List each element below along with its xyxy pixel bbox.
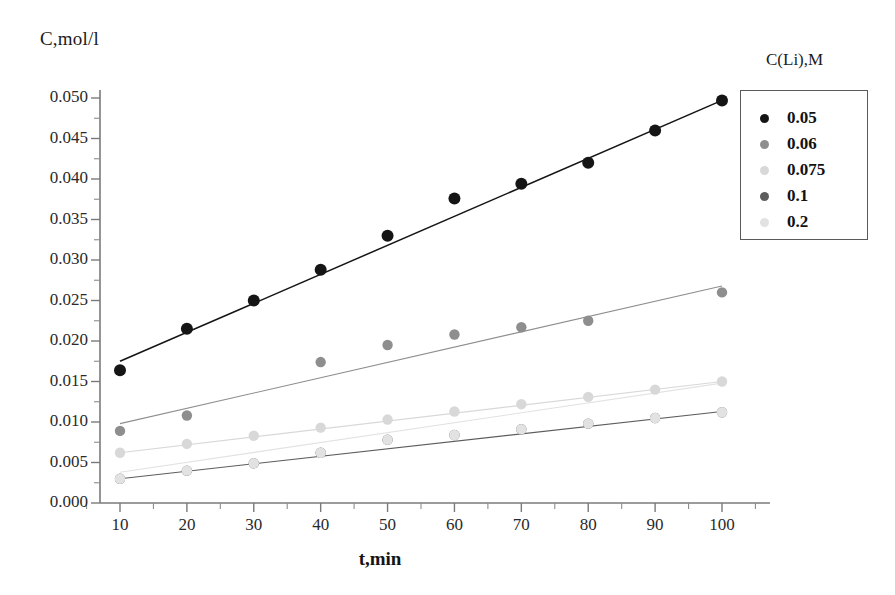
legend-box: 0.050.060.0750.10.2 xyxy=(740,90,868,240)
y-tick-label: 0.040 xyxy=(18,168,88,188)
data-point xyxy=(382,435,392,445)
circle-icon xyxy=(760,166,769,175)
data-point xyxy=(182,439,192,449)
trend-line-0-1 xyxy=(120,411,722,478)
y-tick-marks xyxy=(91,98,100,503)
data-point xyxy=(516,424,526,434)
x-tick-label: 50 xyxy=(365,515,411,535)
y-tick-label: 0.015 xyxy=(18,371,88,391)
data-point xyxy=(716,94,728,106)
data-point xyxy=(449,329,459,339)
x-tick-label: 100 xyxy=(699,515,745,535)
y-axis-title: C,mol/l xyxy=(40,28,99,50)
data-point xyxy=(449,430,459,440)
y-tick-label: 0.035 xyxy=(18,209,88,229)
data-point xyxy=(249,431,259,441)
y-tick-label: 0.030 xyxy=(18,249,88,269)
data-point xyxy=(315,448,325,458)
data-point xyxy=(315,422,325,432)
legend-marker-icon xyxy=(741,218,787,227)
legend-item-0-1[interactable]: 0.1 xyxy=(741,183,869,209)
legend-item-0-075[interactable]: 0.075 xyxy=(741,157,869,183)
x-tick-label: 70 xyxy=(498,515,544,535)
data-point xyxy=(515,178,527,190)
x-axis-title: t,min xyxy=(0,548,760,570)
data-point xyxy=(248,295,260,307)
data-point-markers xyxy=(114,94,728,483)
data-point xyxy=(582,157,594,169)
y-tick-label: 0.045 xyxy=(18,128,88,148)
y-tick-label: 0.025 xyxy=(18,290,88,310)
data-point xyxy=(181,323,193,335)
data-point xyxy=(115,474,125,484)
trend-lines xyxy=(120,100,722,478)
y-tick-label: 0.005 xyxy=(18,452,88,472)
data-point xyxy=(115,426,125,436)
data-point xyxy=(650,384,660,394)
x-tick-marks xyxy=(87,503,756,512)
y-tick-label: 0.010 xyxy=(18,411,88,431)
data-point xyxy=(583,418,593,428)
data-point xyxy=(650,413,660,423)
circle-icon xyxy=(760,114,769,123)
data-point xyxy=(182,465,192,475)
circle-icon xyxy=(760,192,769,201)
data-point xyxy=(583,316,593,326)
trend-line-0-2 xyxy=(120,383,722,472)
legend-item-label: 0.06 xyxy=(787,134,817,154)
y-tick-label: 0.020 xyxy=(18,330,88,350)
legend-marker-icon xyxy=(741,114,787,123)
data-point xyxy=(382,230,394,242)
legend-item-label: 0.2 xyxy=(787,212,808,232)
axis-lines xyxy=(100,90,770,503)
x-tick-label: 20 xyxy=(164,515,210,535)
data-point xyxy=(315,264,327,276)
chart-figure: C,mol/l C(Li),M 0.0000.0050.0100.0150.02… xyxy=(0,0,895,595)
trend-line-0-075 xyxy=(120,382,722,453)
legend-marker-icon xyxy=(741,140,787,149)
legend-marker-icon xyxy=(741,192,787,201)
data-point xyxy=(249,458,259,468)
data-point xyxy=(448,192,460,204)
legend-item-0-06[interactable]: 0.06 xyxy=(741,131,869,157)
data-point xyxy=(717,407,727,417)
data-point xyxy=(115,448,125,458)
data-point xyxy=(717,376,727,386)
data-point xyxy=(516,399,526,409)
x-tick-label: 90 xyxy=(632,515,678,535)
legend-item-0-2[interactable]: 0.2 xyxy=(741,209,869,235)
legend-title: C(Li),M xyxy=(766,50,823,70)
data-point xyxy=(315,357,325,367)
data-point xyxy=(449,406,459,416)
trend-line-0-06 xyxy=(120,286,722,424)
data-point xyxy=(182,410,192,420)
legend-marker-icon xyxy=(741,166,787,175)
y-tick-label: 0.050 xyxy=(18,87,88,107)
trend-line-0-05 xyxy=(120,100,722,361)
x-tick-label: 80 xyxy=(565,515,611,535)
legend-item-label: 0.05 xyxy=(787,108,817,128)
legend-item-label: 0.075 xyxy=(787,160,825,180)
data-point xyxy=(583,392,593,402)
data-point xyxy=(717,287,727,297)
data-point xyxy=(516,322,526,332)
legend-item-0-05[interactable]: 0.05 xyxy=(741,105,869,131)
x-tick-label: 40 xyxy=(298,515,344,535)
x-tick-label: 30 xyxy=(231,515,277,535)
x-tick-label: 10 xyxy=(97,515,143,535)
data-point xyxy=(114,364,126,376)
data-point xyxy=(382,414,392,424)
x-tick-label: 60 xyxy=(431,515,477,535)
data-point xyxy=(649,124,661,136)
circle-icon xyxy=(760,218,769,227)
legend-item-label: 0.1 xyxy=(787,186,808,206)
circle-icon xyxy=(760,140,769,149)
data-point xyxy=(382,340,392,350)
y-tick-label: 0.000 xyxy=(18,492,88,512)
